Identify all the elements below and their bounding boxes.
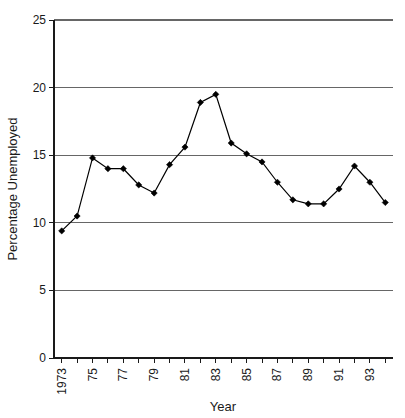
y-tick-label-0: 0: [39, 351, 46, 365]
x-tick-label-1983: 83: [209, 368, 223, 382]
series-line-percentage-unemployed: [62, 94, 386, 231]
x-tick-label-1979: 79: [147, 368, 161, 382]
chart-figure: 0510152025 197375777981838587899193 Perc…: [0, 0, 405, 418]
x-tick-label-1975: 75: [86, 368, 100, 382]
data-point-1982: [197, 99, 203, 105]
y-tick-label-25: 25: [33, 13, 47, 27]
x-axis-group: 197375777981838587899193: [54, 358, 393, 395]
data-point-1979: [151, 190, 157, 196]
x-tick-label-1987: 87: [270, 368, 284, 382]
data-point-1989: [305, 201, 311, 207]
x-tick-label-1977: 77: [116, 368, 130, 382]
gridlines-group: [54, 20, 393, 290]
y-tick-label-group: 0510152025: [33, 13, 47, 365]
x-tick-label-1989: 89: [301, 368, 315, 382]
y-tick-label-10: 10: [33, 216, 47, 230]
x-tick-label-1985: 85: [240, 368, 254, 382]
y-axis-group: 0510152025: [33, 13, 54, 365]
y-tick-label-20: 20: [33, 81, 47, 95]
x-tick-label-1973: 1973: [55, 368, 69, 395]
y-tick-group: [49, 20, 54, 358]
y-axis-title: Percentage Unemployed: [5, 117, 20, 260]
x-tick-label-1981: 81: [178, 368, 192, 382]
x-axis-title: Year: [210, 399, 237, 414]
data-series-group: [59, 91, 389, 234]
x-tick-group: [62, 358, 386, 363]
y-tick-label-15: 15: [33, 148, 47, 162]
x-tick-label-1991: 91: [332, 368, 346, 382]
x-tick-label-1993: 93: [363, 368, 377, 382]
x-tick-label-group: 197375777981838587899193: [55, 368, 377, 395]
y-tick-label-5: 5: [39, 283, 46, 297]
series-marker-group: [59, 91, 389, 234]
chart-canvas: 0510152025 197375777981838587899193 Perc…: [0, 0, 405, 418]
data-point-1983: [213, 91, 219, 97]
